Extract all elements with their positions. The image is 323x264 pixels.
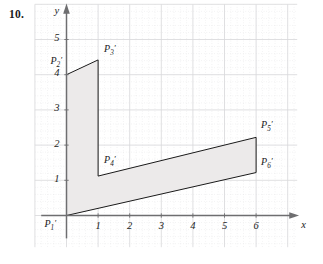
x-tick-label-3: 3 <box>152 220 170 231</box>
y-tick-label-1: 1 <box>45 173 60 184</box>
P5-prime-label: P5′ <box>261 119 273 133</box>
y-tick-label-5: 5 <box>45 32 60 43</box>
P6-prime-label: P6′ <box>261 156 273 170</box>
P1-prime-label: P1′ <box>45 218 57 232</box>
y-tick-label-2: 2 <box>45 138 60 149</box>
y-axis-label: y <box>55 5 60 16</box>
P3-prime-label: P3′ <box>104 43 116 57</box>
x-tick-label-1: 1 <box>89 220 107 231</box>
x-axis-label: x <box>301 219 306 230</box>
y-tick-label-3: 3 <box>45 102 60 113</box>
x-tick-label-6: 6 <box>247 220 265 231</box>
y-tick-label-4: 4 <box>45 67 60 78</box>
P2-prime-label: P2′ <box>51 55 63 69</box>
x-tick-label-4: 4 <box>184 220 202 231</box>
x-tick-label-2: 2 <box>121 220 139 231</box>
P4-prime-label: P4′ <box>104 154 116 168</box>
x-tick-label-5: 5 <box>216 220 234 231</box>
